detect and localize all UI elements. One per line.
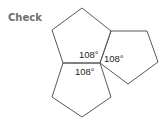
pentagon-diagram: 108° 108° 108° — [0, 0, 166, 122]
angle-label-top: 108° — [79, 49, 99, 60]
angle-label-right: 108° — [104, 53, 124, 64]
angle-label-bottom: 108° — [75, 66, 95, 77]
